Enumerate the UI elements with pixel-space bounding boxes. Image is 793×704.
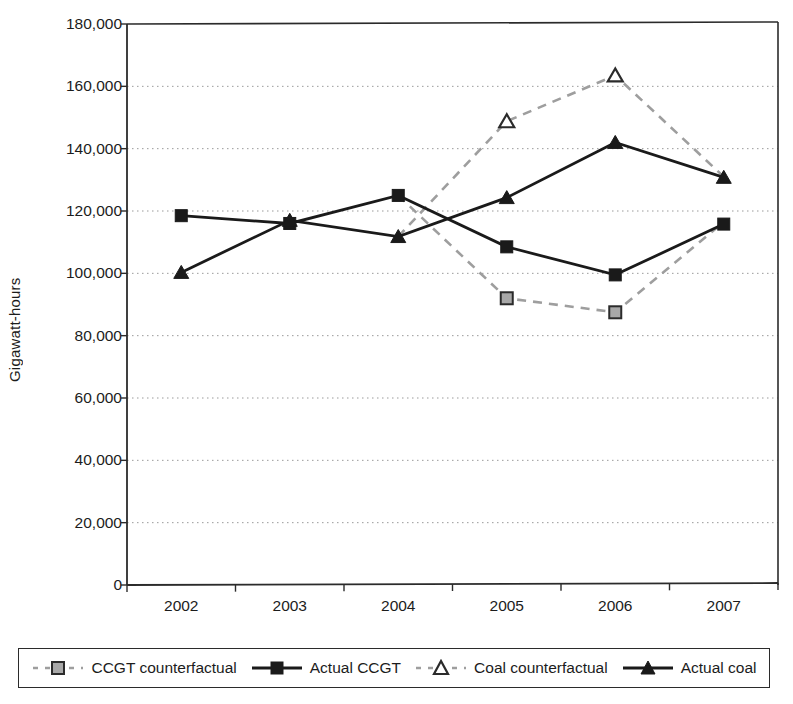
x-axis-tick-label: 2005: [490, 597, 524, 615]
x-axis-tick-label: 2004: [381, 597, 415, 615]
data-point-ccgt-counterfactual-2005: [501, 292, 513, 304]
square-gray-dashed-icon: [31, 659, 85, 677]
legend-item-label: CCGT counterfactual: [91, 659, 236, 677]
chart-container: Gigawatt-hours 180,000160,000140,000120,…: [0, 0, 793, 704]
axis-frame: [121, 22, 778, 585]
legend-item-label: Actual coal: [681, 659, 757, 677]
triangle-filled-solid-icon: [621, 659, 675, 677]
data-point-actual-coal-2006: [608, 135, 623, 148]
data-point-actual-ccgt-2002: [175, 210, 187, 222]
square-filled-solid-icon: [250, 659, 304, 677]
data-point-coal-counterfactual-2005: [499, 114, 514, 127]
data-point-actual-ccgt-2007: [718, 218, 730, 230]
triangle-open-dashed-icon: [414, 659, 468, 677]
series-line-actual-ccgt: [181, 195, 724, 274]
data-point-actual-coal-2002: [174, 265, 189, 278]
data-point-actual-ccgt-2004: [392, 189, 404, 201]
chart-legend: CCGT counterfactualActual CCGTCoal count…: [18, 648, 770, 688]
legend-item-label: Actual CCGT: [310, 659, 401, 677]
gridlines: [127, 86, 778, 522]
series-line-actual-coal: [181, 142, 724, 272]
x-axis-tick-label: 2006: [598, 597, 632, 615]
data-series-layer: [174, 68, 732, 318]
legend-item-coal-counterfactual[interactable]: Coal counterfactual: [414, 659, 608, 677]
legend-item-actual-ccgt[interactable]: Actual CCGT: [250, 659, 401, 677]
x-axis-tick-label: 2002: [164, 597, 198, 615]
data-point-coal-counterfactual-2006: [608, 68, 623, 81]
series-line-coal-counterfactual: [398, 75, 724, 236]
data-point-actual-ccgt-2006: [609, 269, 621, 281]
x-axis-tick-label: 2007: [707, 597, 741, 615]
series-line-ccgt-counterfactual: [398, 195, 724, 312]
legend-item-actual-coal[interactable]: Actual coal: [621, 659, 757, 677]
x-axis-tick-label: 2003: [273, 597, 307, 615]
legend-item-label: Coal counterfactual: [474, 659, 608, 677]
data-point-actual-coal-2005: [499, 191, 514, 204]
data-point-ccgt-counterfactual-2006: [609, 306, 621, 318]
legend-item-ccgt-counterfactual[interactable]: CCGT counterfactual: [31, 659, 236, 677]
data-point-actual-ccgt-2005: [501, 241, 513, 253]
